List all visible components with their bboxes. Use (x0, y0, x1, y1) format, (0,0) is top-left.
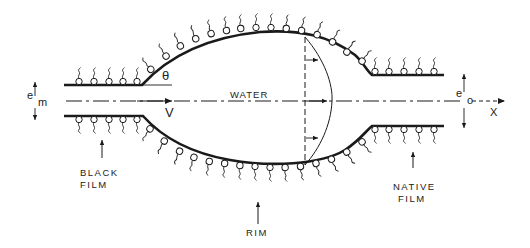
lower-interface (64, 116, 444, 164)
film-diagram: θ WATER V e m e o X BLACK FILM RIM NATIV… (0, 0, 530, 248)
em-label-sub: m (38, 96, 47, 108)
velocity-label: V (165, 105, 174, 120)
native-film-label-line1: NATIVE (393, 181, 436, 192)
x-axis-label: X (490, 106, 498, 118)
black-film-label-line1: BLACK (80, 167, 119, 178)
surfactants-native-film-bottom (372, 126, 437, 143)
black-film-label-line2: FILM (80, 179, 108, 190)
theta-label: θ (162, 68, 169, 83)
native-film-label-line2: FILM (398, 193, 426, 204)
surfactants-native-film-top (372, 58, 437, 75)
eo-label-main: e (456, 87, 462, 99)
surfactants-black-film-top (76, 68, 140, 85)
upper-interface (64, 31, 444, 85)
surfactants-black-film-bottom (76, 116, 140, 133)
water-label: WATER (230, 89, 268, 100)
em-label-main: e (27, 89, 33, 101)
eo-label-sub: o (467, 94, 473, 106)
rim-label: RIM (246, 227, 268, 238)
